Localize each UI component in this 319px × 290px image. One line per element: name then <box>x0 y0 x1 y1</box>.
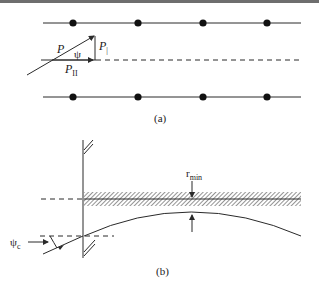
incident-trajectory <box>43 236 83 254</box>
label-psi: ψ <box>74 48 81 60</box>
atom <box>263 93 270 100</box>
caption-a: (a) <box>154 112 167 125</box>
label-p-parallel: PII <box>64 62 78 78</box>
channeling-diagram: P ψ P| PII (a) rmin <box>0 0 319 290</box>
atom <box>134 19 141 26</box>
panel-b: rmin ψc (b) <box>10 140 301 278</box>
atom <box>199 93 206 100</box>
atom <box>69 19 76 26</box>
atom <box>134 93 141 100</box>
atom <box>263 19 270 26</box>
label-psi-c: ψc <box>10 236 21 251</box>
label-p: P <box>56 42 65 56</box>
panel-a: P ψ P| PII (a) <box>27 19 301 125</box>
critical-angle-arc <box>50 236 57 248</box>
label-p-perp: P| <box>98 39 108 55</box>
atom <box>69 93 76 100</box>
label-r-min: rmin <box>186 167 202 182</box>
caption-b: (b) <box>156 265 169 278</box>
atom <box>199 19 206 26</box>
